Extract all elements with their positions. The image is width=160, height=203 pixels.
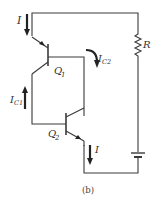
circuit-diagram: I Q 1 I C1 I C2 R Q 2 I (b): [0, 0, 160, 203]
q1-collector: [32, 62, 48, 74]
label-r: R: [142, 39, 151, 50]
q2-emitter: [66, 131, 84, 141]
q1-collector-wire: [32, 74, 66, 124]
figure-caption: (b): [82, 185, 94, 195]
q1-emitter: [32, 37, 48, 48]
label-q2-sub: 2: [54, 134, 60, 142]
label-ic2-sub: C2: [102, 58, 111, 66]
resistor: [135, 32, 141, 58]
q1-emitter-arrow-icon: [39, 41, 45, 46]
q2-collector: [66, 108, 84, 117]
label-i-top: I: [16, 14, 22, 27]
label-i-bottom: I: [94, 144, 100, 155]
label-q1-sub: 1: [61, 71, 65, 79]
top-wire: [32, 13, 138, 36]
arrow-i-bottom-icon: [87, 145, 93, 165]
arrow-i-top-icon: [24, 14, 30, 36]
label-ic1-sub: C1: [14, 99, 23, 107]
